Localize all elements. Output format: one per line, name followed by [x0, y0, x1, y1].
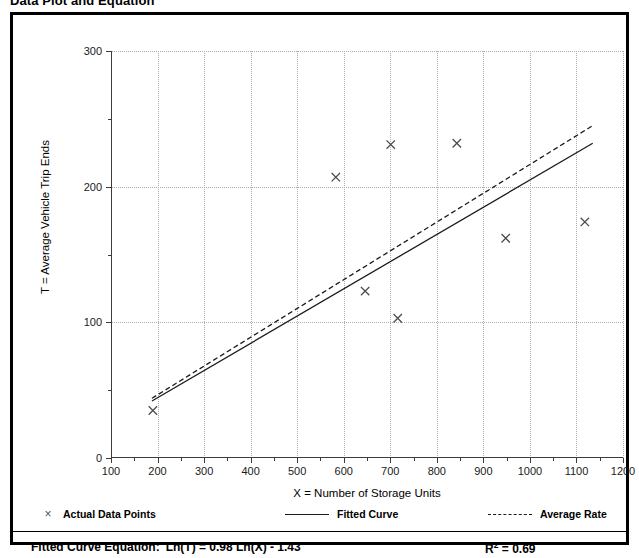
x-tick-minor — [227, 458, 228, 461]
x-tick-label: 800 — [428, 465, 446, 477]
x-tick — [204, 458, 205, 463]
r-squared-symbol: R — [485, 542, 494, 556]
data-point — [332, 173, 340, 181]
series-line-average-rate — [152, 126, 593, 399]
data-point — [361, 287, 369, 295]
x-tick — [251, 458, 252, 463]
legend-item-actual-data-points: × Actual Data Points — [41, 508, 156, 520]
chart-legend: × Actual Data Points Fitted Curve Averag… — [13, 508, 626, 528]
x-tick-minor — [181, 458, 182, 461]
x-tick-label: 100 — [102, 465, 120, 477]
x-tick-label: 200 — [148, 465, 166, 477]
equation-row: Fitted Curve Equation:Ln(T) = 0.98 Ln(X)… — [13, 536, 626, 558]
x-tick — [344, 458, 345, 463]
x-tick-label: 700 — [381, 465, 399, 477]
x-tick-minor — [460, 458, 461, 461]
gridline-vertical — [623, 51, 624, 458]
equation-formula: Ln(T) = 0.98 Ln(X) - 1.43 — [166, 540, 301, 554]
x-tick-label: 900 — [474, 465, 492, 477]
legend-label-fitted-curve: Fitted Curve — [337, 508, 398, 520]
data-point — [453, 139, 461, 147]
x-tick-minor — [320, 458, 321, 461]
x-tick — [297, 458, 298, 463]
x-tick — [576, 458, 577, 463]
x-tick-minor — [134, 458, 135, 461]
legend-label-average-rate: Average Rate — [540, 508, 607, 520]
cross-marker-icon: × — [41, 509, 55, 519]
x-tick — [483, 458, 484, 463]
x-tick-minor — [274, 458, 275, 461]
x-tick — [111, 458, 112, 463]
r-squared-exponent: 2 — [494, 540, 499, 550]
data-point — [149, 406, 157, 414]
x-tick-label: 1100 — [565, 465, 589, 477]
x-tick — [158, 458, 159, 463]
data-point — [581, 218, 589, 226]
x-tick-minor — [507, 458, 508, 461]
x-tick-label: 300 — [195, 465, 213, 477]
x-tick — [437, 458, 438, 463]
x-tick-label: 600 — [335, 465, 353, 477]
x-tick-label: 1200 — [611, 465, 635, 477]
y-tick-label: 300 — [84, 45, 102, 57]
dashed-line-icon — [488, 509, 532, 519]
legend-separator — [13, 531, 626, 532]
data-point — [387, 140, 395, 148]
y-axis-title: T = Average Vehicle Trip Ends — [39, 77, 51, 357]
data-point — [502, 234, 510, 242]
x-tick — [390, 458, 391, 463]
figure-frame: 0100200300 10020030040050060070080090010… — [10, 12, 629, 545]
legend-item-average-rate: Average Rate — [488, 508, 607, 520]
series-line-fitted-curve — [152, 143, 593, 401]
legend-item-fitted-curve: Fitted Curve — [285, 508, 398, 520]
series-points-actual-data-points — [149, 139, 589, 415]
y-tick-label: 100 — [84, 316, 102, 328]
equation-caption: Fitted Curve Equation: — [31, 540, 160, 554]
fitted-curve-equation: Fitted Curve Equation:Ln(T) = 0.98 Ln(X)… — [31, 540, 301, 554]
y-tick-label: 0 — [96, 452, 102, 464]
y-tick-label: 200 — [84, 181, 102, 193]
x-tick-label: 400 — [241, 465, 259, 477]
x-tick-minor — [600, 458, 601, 461]
data-series-layer — [111, 51, 623, 458]
x-tick-label: 500 — [288, 465, 306, 477]
plot-area: 0100200300 10020030040050060070080090010… — [111, 51, 623, 458]
r-squared-value: R2 = 0.69 — [485, 540, 536, 556]
page-title: Data Plot and Equation — [10, 0, 154, 8]
solid-line-icon — [285, 509, 329, 519]
x-tick — [530, 458, 531, 463]
data-point — [394, 314, 402, 322]
x-tick — [623, 458, 624, 463]
x-tick-label: 1000 — [518, 465, 542, 477]
x-tick-minor — [367, 458, 368, 461]
x-tick-minor — [553, 458, 554, 461]
legend-label-actual-data-points: Actual Data Points — [63, 508, 156, 520]
r-squared-number: = 0.69 — [502, 542, 536, 556]
x-tick-minor — [414, 458, 415, 461]
x-axis-title: X = Number of Storage Units — [111, 487, 623, 499]
